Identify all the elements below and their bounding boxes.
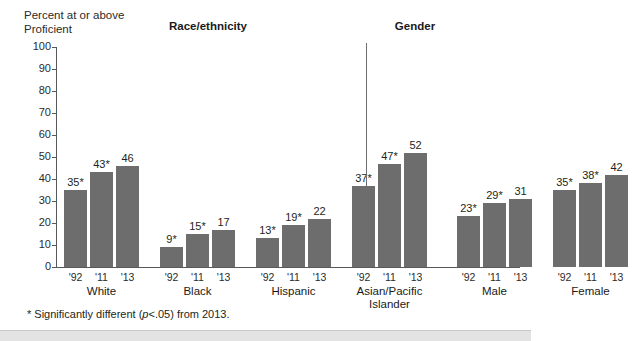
bar: [605, 175, 628, 267]
group-label-line: Female: [531, 285, 632, 298]
bar-group-item: 15*: [186, 47, 209, 267]
x-tick-label: '13: [401, 271, 431, 283]
bar: [282, 225, 305, 267]
bar: [308, 219, 331, 267]
bar: [256, 238, 279, 267]
bar: [553, 190, 576, 267]
section-header-gender: Gender: [365, 20, 465, 32]
bar: [378, 164, 401, 267]
y-tick-label: 40: [17, 172, 51, 184]
y-tick-label: 10: [17, 238, 51, 250]
bar-group-item: 13*: [256, 47, 279, 267]
y-tick-label: 50: [17, 150, 51, 162]
bar: [579, 183, 602, 267]
bar: [509, 199, 532, 267]
bar-group-item: 22: [308, 47, 331, 267]
y-tick-label: 100: [17, 40, 51, 52]
y-tick-label: 30: [17, 194, 51, 206]
bar-value-label: 31: [501, 185, 541, 197]
bar-group-item: 46: [116, 47, 139, 267]
y-tick-label: 70: [17, 106, 51, 118]
group-label-line: Islander: [330, 298, 450, 311]
bar: [483, 203, 506, 267]
bar-group-item: 17: [212, 47, 235, 267]
y-tick-mark: [52, 267, 57, 268]
bar: [90, 172, 113, 267]
bar-group-item: 52: [404, 47, 427, 267]
group-label: Female: [531, 285, 632, 298]
section-divider: [366, 43, 367, 267]
bar-value-label: 42: [597, 161, 632, 173]
bar-value-label: 17: [204, 216, 244, 228]
footnote-prefix: * Significantly different (: [27, 308, 142, 320]
bar-group-item: 29*: [483, 47, 506, 267]
x-tick-label: '13: [305, 271, 335, 283]
bar-group-item: 19*: [282, 47, 305, 267]
bar-value-label: 52: [396, 139, 436, 151]
bar-value-label: 46: [108, 152, 148, 164]
bar-group-item: 23*: [457, 47, 480, 267]
bar-group-item: 35*: [553, 47, 576, 267]
x-tick-label: '13: [506, 271, 536, 283]
bottom-band: [0, 331, 531, 341]
section-header-race-ethnicity: Race/ethnicity: [108, 20, 308, 32]
x-tick-label: '13: [209, 271, 239, 283]
y-tick-label: 60: [17, 128, 51, 140]
bar-value-label: 22: [300, 205, 340, 217]
footnote: * Significantly different (p<.05) from 2…: [27, 308, 230, 320]
bar: [64, 190, 87, 267]
bar: [160, 247, 183, 267]
bar-group-item: 31: [509, 47, 532, 267]
bars-layer: 35*43*469*15*1713*19*2237*47*5223*29*313…: [56, 47, 520, 267]
y-tick-label: 80: [17, 84, 51, 96]
bar: [212, 230, 235, 267]
group-label-line: Asian/Pacific: [330, 285, 450, 298]
bar-group-item: 35*: [64, 47, 87, 267]
group-label: Asian/PacificIslander: [330, 285, 450, 311]
x-tick-label: '13: [113, 271, 143, 283]
y-tick-label: 90: [17, 62, 51, 74]
y-tick-label: 20: [17, 216, 51, 228]
x-tick-label: '13: [602, 271, 632, 283]
bar-group-item: 47*: [378, 47, 401, 267]
bar: [352, 186, 375, 267]
bar: [186, 234, 209, 267]
bar-group-item: 38*: [579, 47, 602, 267]
y-tick-label: 0: [17, 260, 51, 272]
footnote-suffix: <.05) from 2013.: [148, 308, 229, 320]
bar: [457, 216, 480, 267]
x-axis-line: [56, 267, 520, 268]
bar: [404, 153, 427, 267]
bar-group-item: 9*: [160, 47, 183, 267]
bar-group-item: 42: [605, 47, 628, 267]
bar: [116, 166, 139, 267]
